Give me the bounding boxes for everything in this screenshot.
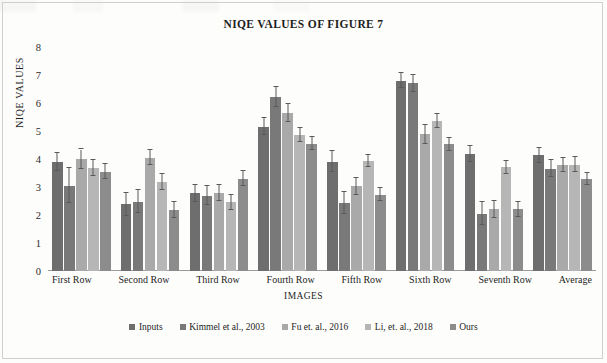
error-bar-cap-bottom [584, 184, 589, 185]
error-bar-cap-top [103, 163, 108, 164]
bar[interactable] [327, 162, 338, 271]
error-bar-cap-top [228, 194, 233, 195]
bar[interactable] [533, 155, 544, 271]
bar-group [121, 47, 180, 271]
bar[interactable] [351, 186, 362, 271]
error-bar [380, 188, 381, 201]
error-bar-cap-bottom [216, 200, 221, 201]
error-bar-cap-bottom [354, 194, 359, 195]
error-bar [162, 174, 163, 190]
error-bar-cap-bottom [435, 127, 440, 128]
error-bar [287, 104, 288, 122]
bar[interactable] [226, 202, 237, 271]
bar[interactable] [489, 209, 500, 271]
x-axis-label: Average [559, 274, 592, 285]
error-bar-cap-top [330, 150, 335, 151]
bar[interactable] [363, 161, 374, 271]
error-bar-cap-top [342, 191, 347, 192]
x-axis-label: Fifth Row [341, 274, 382, 285]
bar[interactable] [214, 193, 225, 271]
bar[interactable] [432, 121, 443, 271]
legend-item[interactable]: Ours [450, 322, 478, 332]
error-bar-cap-top [584, 172, 589, 173]
legend-label: Fu et. al., 2016 [291, 322, 348, 332]
error-bar-cap-bottom [560, 171, 565, 172]
error-bar [505, 161, 506, 174]
error-bar [263, 118, 264, 135]
bar[interactable] [157, 182, 168, 271]
bar[interactable] [306, 144, 317, 271]
x-axis-label: Third Row [196, 274, 240, 285]
bar[interactable] [465, 154, 476, 271]
error-bar-cap-top [91, 159, 96, 160]
bar[interactable] [569, 165, 580, 271]
bar-slot [501, 47, 512, 271]
error-bar-cap-top [548, 159, 553, 160]
bar-slot [76, 47, 87, 271]
bar-slot [121, 47, 132, 271]
legend-label: Kimmel et al., 2003 [189, 322, 265, 332]
error-bar-cap-bottom [285, 121, 290, 122]
error-bar-cap-bottom [399, 87, 404, 88]
bar[interactable] [501, 167, 512, 271]
bar[interactable] [282, 113, 293, 271]
bar[interactable] [408, 83, 419, 271]
bar[interactable] [100, 172, 111, 271]
error-bar-cap-top [572, 156, 577, 157]
bar-group [258, 47, 317, 271]
error-bar-cap-bottom [378, 200, 383, 201]
error-bar-cap-top [447, 137, 452, 138]
legend-item[interactable]: Fu et. al., 2016 [282, 322, 349, 332]
bar[interactable] [88, 168, 99, 271]
bar[interactable] [557, 165, 568, 271]
error-bar [437, 114, 438, 129]
chart-title: NIQE VALUES OF FIGURE 7 [0, 18, 607, 30]
y-axis-tick: 8 [36, 42, 41, 53]
bar[interactable] [258, 127, 269, 271]
bar[interactable] [396, 81, 407, 271]
bar[interactable] [169, 210, 180, 271]
legend-item[interactable]: Inputs [129, 322, 162, 332]
error-bar-cap-bottom [91, 175, 96, 176]
error-bar-cap-bottom [423, 143, 428, 144]
bar[interactable] [145, 158, 156, 271]
bar[interactable] [513, 209, 524, 271]
bar[interactable] [202, 196, 213, 271]
bar-slot [569, 47, 580, 271]
bar[interactable] [190, 193, 201, 271]
legend-swatch-icon [282, 324, 288, 330]
bar-slot [533, 47, 544, 271]
bar[interactable] [420, 134, 431, 271]
error-bar-cap-bottom [297, 141, 302, 142]
error-bar-cap-bottom [479, 224, 484, 225]
bar[interactable] [545, 169, 556, 271]
error-bar-cap-top [67, 167, 72, 168]
error-bar-cap-bottom [55, 170, 60, 171]
bar[interactable] [76, 159, 87, 271]
bar-slot [420, 47, 431, 271]
bar[interactable] [294, 135, 305, 271]
legend-item[interactable]: Li, et. al., 2018 [365, 322, 432, 332]
legend-swatch-icon [365, 324, 371, 330]
error-bar-cap-top [285, 103, 290, 104]
bar[interactable] [444, 144, 455, 271]
error-bar-cap-bottom [148, 164, 153, 165]
error-bar [332, 151, 333, 172]
error-bar-cap-top [491, 200, 496, 201]
error-bar-cap-bottom [79, 168, 84, 169]
bar[interactable] [375, 195, 386, 271]
bar-slot [513, 47, 524, 271]
error-bar [493, 201, 494, 218]
bar-slot [270, 47, 281, 271]
error-bar [574, 157, 575, 172]
bar[interactable] [581, 179, 592, 271]
bar[interactable] [52, 162, 63, 271]
error-bar [126, 193, 127, 217]
bar[interactable] [238, 179, 249, 271]
error-bar-cap-bottom [366, 166, 371, 167]
error-bar [469, 146, 470, 163]
error-bar [275, 87, 276, 107]
legend-item[interactable]: Kimmel et al., 2003 [180, 322, 265, 332]
bar[interactable] [270, 97, 281, 271]
error-bar [425, 125, 426, 144]
